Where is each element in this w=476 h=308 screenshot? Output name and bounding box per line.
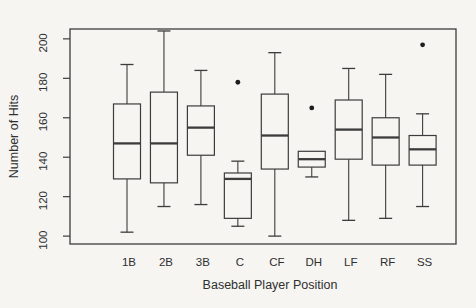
outlier-point [309,105,314,110]
y-tick-label: 120 [37,191,49,210]
box-RF: RF [372,74,399,268]
y-tick-label: 180 [37,73,49,92]
iqr-box [150,92,177,183]
x-tick-label: CF [269,256,284,268]
x-tick-label: DH [305,256,322,268]
x-axis-label: Baseball Player Position [203,278,338,292]
y-tick-label: 100 [37,231,49,250]
iqr-box [187,106,214,155]
box-LF: LF [335,68,362,268]
x-tick-label: C [236,256,244,268]
iqr-box [114,104,141,179]
y-tick-label: 200 [37,33,49,52]
iqr-box [261,94,288,169]
box-SS: SS [409,42,436,268]
box-3B: 3B [187,70,214,268]
y-axis-label: Number of Hits [7,95,21,178]
box-CF: CF [261,53,288,268]
outlier-point [235,80,240,85]
x-tick-label: 1B [122,256,136,268]
x-tick-label: RF [380,256,395,268]
x-tick-label: 3B [196,256,210,268]
box-2B: 2B [150,31,177,268]
boxplot-figure: 100120140160180200Number of HitsBaseball… [0,0,476,308]
x-tick-label: 2B [159,256,173,268]
x-tick-label: SS [417,256,433,268]
boxplot-chart: 100120140160180200Number of HitsBaseball… [0,0,476,308]
y-tick-label: 160 [37,112,49,131]
iqr-box [372,118,399,165]
box-1B: 1B [114,65,141,268]
box-C: C [224,80,251,268]
y-tick-label: 140 [37,152,49,171]
x-tick-label: LF [344,256,357,268]
outlier-point [420,42,425,47]
